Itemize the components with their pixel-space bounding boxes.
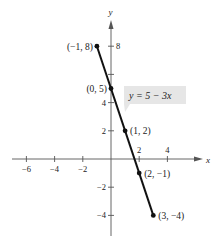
x-tick-label: 2 [137, 145, 141, 155]
equation-label-box: y = 5 − 3x [124, 86, 186, 112]
data-point [95, 44, 100, 49]
x-axis-arrow-icon [194, 157, 203, 162]
point-label: (1, 2) [130, 126, 151, 137]
axes: xy−6−4−224−4−2248 [12, 7, 210, 236]
x-tick-label: −4 [50, 164, 60, 174]
y-axis-arrow-icon [109, 20, 114, 29]
x-tick-label: −2 [78, 164, 87, 174]
equation-label: y = 5 − 3x [128, 90, 172, 101]
y-tick-label: −2 [97, 182, 106, 192]
y-tick-label: 4 [102, 98, 107, 108]
y-tick-label: 2 [102, 126, 106, 136]
x-axis-label: x [205, 155, 210, 165]
data-point [123, 128, 128, 133]
point-label: (3, −4) [158, 211, 184, 222]
chart-svg: xy−6−4−224−4−2248 y = 5 − 3x (−1, 8)(0, … [0, 0, 224, 241]
y-tick-label: −4 [97, 210, 107, 220]
data-points: (−1, 8)(0, 5)(1, 2)(2, −1)(3, −4) [67, 42, 184, 222]
data-point [109, 86, 114, 91]
x-tick-label: −6 [22, 164, 31, 174]
x-tick-label: 4 [165, 145, 170, 155]
y-axis-label: y [108, 7, 113, 17]
data-point [151, 213, 156, 218]
point-label: (−1, 8) [67, 42, 93, 53]
y-tick-label: 8 [116, 41, 120, 51]
chart: xy−6−4−224−4−2248 y = 5 − 3x (−1, 8)(0, … [0, 0, 224, 241]
point-label: (0, 5) [86, 84, 107, 95]
point-label: (2, −1) [144, 169, 170, 180]
data-point [137, 171, 142, 176]
